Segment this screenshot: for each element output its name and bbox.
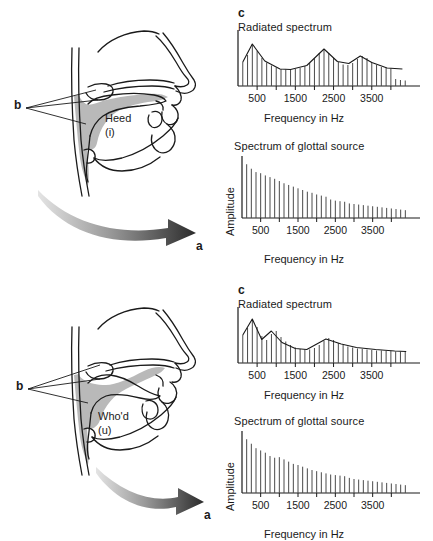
chart-whod-glottal: Spectrum of glottal source Amplitude 500… [212, 415, 433, 521]
svg-text:500: 500 [252, 224, 270, 236]
word-label-heed: Heed [105, 112, 131, 124]
airflow-arrow [38, 190, 196, 246]
svg-text:1500: 1500 [284, 92, 308, 104]
spectrum-plot-whod-radiated: 500150025003500 [212, 277, 433, 382]
jaw-lower-edge [94, 157, 160, 171]
label-b-heed: b [14, 98, 21, 112]
hard-palate [108, 80, 174, 86]
panel-whod: b a Who'd (u) c Radiated spectrum 500150… [0, 271, 433, 541]
face-profile [156, 313, 189, 364]
chart-title-whod-glottal: Spectrum of glottal source [234, 415, 364, 427]
chart-whod-radiated: c Radiated spectrum 500150025003500 Freq… [212, 277, 433, 382]
yaxis-title-whod-glottal: Amplitude [224, 462, 236, 511]
vocal-tract-diagram-heed: b a Heed (i) [0, 0, 215, 270]
nostril-curve [172, 363, 181, 382]
panel-heed: b a Heed (i) c Radiated spectrum 5001500… [0, 0, 433, 270]
yaxis-title-heed-glottal: Amplitude [224, 187, 236, 236]
svg-text:3500: 3500 [360, 92, 384, 104]
spectrum-plot-heed-glottal: 500150025003500 [212, 156, 433, 246]
xaxis-title-heed-radiated: Frequency in Hz [264, 112, 344, 124]
epiglottis [142, 400, 158, 419]
svg-text:500: 500 [248, 92, 266, 104]
nose-outline [163, 310, 195, 370]
chart-letter-c-whod: c [238, 283, 245, 297]
nasal-floor [104, 86, 174, 92]
airway-shading [74, 94, 168, 186]
chart-letter-c-heed: c [238, 6, 245, 20]
label-b-whod: b [16, 379, 23, 393]
svg-text:1500: 1500 [284, 369, 308, 381]
nose-outline [163, 33, 195, 93]
symbol-label-heed: (i) [105, 126, 115, 138]
svg-text:500: 500 [252, 499, 270, 511]
svg-text:3500: 3500 [361, 499, 385, 511]
xaxis-title-whod-radiated: Frequency in Hz [264, 389, 344, 401]
svg-text:2500: 2500 [322, 369, 346, 381]
chart-heed-radiated: c Radiated spectrum 500150025003500 Freq… [212, 0, 433, 105]
hard-palate [110, 359, 174, 365]
airflow-arrow [96, 467, 204, 515]
mandible [94, 118, 178, 160]
svg-text:2500: 2500 [324, 224, 348, 236]
svg-text:1500: 1500 [286, 224, 310, 236]
svg-text:3500: 3500 [361, 224, 385, 236]
spectrum-plot-whod-glottal: 500150025003500 [212, 431, 433, 521]
xaxis-title-heed-glottal: Frequency in Hz [264, 253, 344, 265]
svg-text:2500: 2500 [324, 499, 348, 511]
chart-title-whod-radiated: Radiated spectrum [238, 298, 332, 310]
svg-text:500: 500 [248, 369, 266, 381]
symbol-label-whod: (u) [98, 424, 111, 436]
label-a-whod: a [204, 508, 211, 522]
svg-text:3500: 3500 [360, 369, 384, 381]
svg-text:2500: 2500 [322, 92, 346, 104]
spectrum-plot-heed-radiated: 500150025003500 [212, 0, 433, 105]
vocal-tract-svg-whod [0, 271, 215, 541]
epiglottis [148, 111, 162, 127]
charts-column-whod: c Radiated spectrum 500150025003500 Freq… [212, 271, 433, 541]
jaw-lower-edge [92, 436, 158, 450]
label-a-heed: a [196, 239, 203, 253]
chart-title-heed-glottal: Spectrum of glottal source [234, 140, 364, 152]
charts-column-heed: c Radiated spectrum 500150025003500 Freq… [212, 0, 433, 270]
chart-heed-glottal: Spectrum of glottal source Amplitude 500… [212, 140, 433, 246]
chart-title-heed-radiated: Radiated spectrum [238, 21, 332, 33]
cranial-curve [98, 31, 159, 52]
face-profile [156, 36, 189, 87]
vocal-tract-diagram-whod: b a Who'd (u) [0, 271, 215, 541]
xaxis-title-whod-glottal: Frequency in Hz [264, 528, 344, 540]
word-label-whod: Who'd [98, 410, 129, 422]
inner-oral-detail [156, 375, 163, 386]
svg-text:1500: 1500 [286, 499, 310, 511]
cranial-curve [98, 308, 159, 329]
